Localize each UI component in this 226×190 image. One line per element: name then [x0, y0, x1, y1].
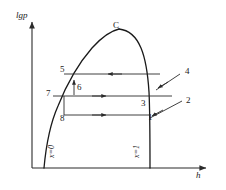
y-axis-label: lgp [16, 11, 28, 20]
state-point-label-7: 7 [46, 89, 51, 98]
state-point-label-1: 1 [148, 113, 153, 122]
saturated-vapor-label: x=1 [133, 145, 141, 158]
x-axis-label: h [196, 171, 201, 180]
saturated-liquid-label: x=0 [48, 145, 56, 158]
leader-line-4-arrow [158, 82, 168, 88]
critical-point-label: C [113, 21, 119, 30]
state-point-label-2: 2 [186, 96, 191, 105]
state-point-label-3: 3 [141, 99, 146, 108]
state-point-label-5: 5 [60, 65, 65, 74]
state-point-label-6: 6 [77, 83, 82, 92]
figure-canvas: lgp h C x=0 x=1 1 2 3 4 5 6 7 8 [0, 0, 226, 190]
leader-line-2 [150, 101, 182, 118]
state-point-label-4: 4 [185, 67, 190, 76]
leader-line-2-arrow [152, 110, 163, 116]
state-point-label-8: 8 [60, 114, 65, 123]
